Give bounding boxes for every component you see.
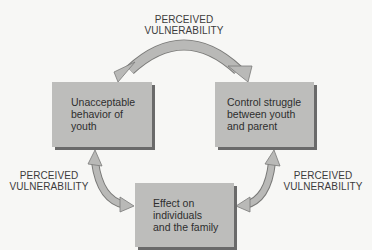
edge-label-top: PERCEIVED VULNERABILITY [134,14,234,36]
node-control-struggle: Control struggle between youth and paren… [215,82,314,147]
node-text-line: Effect on [153,197,234,209]
node-text-line: between youth [227,108,314,120]
node-text-line: behavior of [71,108,152,120]
edge-label-left: PERCEIVED VULNERABILITY [4,170,94,192]
node-text-line: Unacceptable [71,96,152,108]
arrow-right-icon [236,150,280,212]
node-text-line: individuals [153,209,234,221]
edge-label-line: VULNERABILITY [134,25,234,36]
edge-label-line: PERCEIVED [134,14,234,25]
edge-label-line: VULNERABILITY [278,181,368,192]
edge-label-line: PERCEIVED [4,170,94,181]
node-effect-on-family: Effect on individuals and the family [135,183,234,247]
edge-label-line: PERCEIVED [278,170,368,181]
node-text-line: Control struggle [227,96,314,108]
node-text-line: and the family [153,221,234,233]
arrow-top-icon [114,45,252,82]
edge-label-right: PERCEIVED VULNERABILITY [278,170,368,192]
arrow-left-icon [88,150,134,212]
node-text-line: youth [71,120,152,132]
edge-label-line: VULNERABILITY [4,181,94,192]
node-text-line: and parent [227,120,314,132]
node-unacceptable-behavior: Unacceptable behavior of youth [52,82,152,147]
